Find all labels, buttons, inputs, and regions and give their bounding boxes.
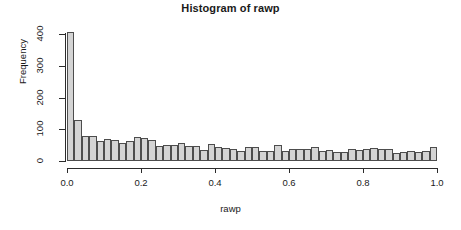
y-axis-tick-label: 200 (34, 80, 45, 114)
x-axis-tick-label: 0.0 (47, 177, 87, 188)
histogram-bar (134, 137, 141, 161)
histogram-bar (171, 145, 178, 162)
x-axis-tick-label: 0.8 (343, 177, 383, 188)
histogram-bar (200, 150, 207, 161)
histogram-bar (333, 152, 340, 161)
histogram-bar (111, 140, 118, 161)
y-axis-tick-label: 300 (34, 48, 45, 82)
x-axis-label: rawp (0, 203, 461, 214)
histogram-bar (282, 151, 289, 161)
histogram-bar (319, 151, 326, 161)
page-title: Histogram of rawp (0, 2, 461, 14)
histogram-bar (119, 143, 126, 161)
y-axis-tick (59, 129, 65, 130)
histogram-bar (400, 152, 407, 161)
histogram-bar (348, 149, 355, 161)
histogram-bar (259, 151, 266, 161)
x-axis-tick (215, 168, 216, 173)
x-axis-tick (67, 168, 68, 173)
y-axis-line (65, 33, 66, 162)
histogram-bar (341, 152, 348, 161)
histogram-bar (141, 138, 148, 161)
histogram-bar (89, 136, 96, 161)
histogram-bar (415, 152, 422, 161)
histogram-bar (267, 151, 274, 161)
histogram-bar (274, 145, 281, 161)
histogram-bar (304, 149, 311, 161)
y-axis-tick (59, 34, 65, 35)
x-axis-tick (363, 168, 364, 173)
y-axis-tick-label: 100 (34, 112, 45, 146)
y-axis-tick (59, 66, 65, 67)
histogram-bar (193, 146, 200, 161)
histogram-bar (82, 136, 89, 161)
y-axis-tick (59, 98, 65, 99)
histogram-plot: Histogram of rawp Frequency rawp 0100200… (0, 0, 461, 230)
x-axis-tick (437, 168, 438, 173)
histogram-bar (185, 146, 192, 161)
histogram-bar (208, 144, 215, 161)
histogram-bar (215, 147, 222, 161)
histogram-bar (237, 151, 244, 161)
histogram-bar (370, 148, 377, 161)
histogram-bar (385, 149, 392, 161)
histogram-bar (430, 147, 437, 161)
histogram-bar (178, 143, 185, 161)
x-axis-tick-label: 0.6 (269, 177, 309, 188)
histogram-bar (74, 120, 81, 161)
x-axis-tick (289, 168, 290, 173)
y-axis-label: Frequency (17, 18, 28, 106)
x-axis-tick-label: 1.0 (417, 177, 457, 188)
plot-panel (67, 30, 437, 161)
histogram-bar (126, 141, 133, 161)
histogram-bar (97, 141, 104, 161)
histogram-bar (245, 147, 252, 161)
histogram-bar (156, 146, 163, 161)
x-axis-tick (141, 168, 142, 173)
y-axis-tick (59, 161, 65, 162)
histogram-bar (148, 140, 155, 161)
histogram-bar (230, 149, 237, 161)
histogram-bar (356, 150, 363, 161)
histogram-bar (393, 153, 400, 161)
histogram-bar (289, 149, 296, 161)
histogram-bar (222, 148, 229, 161)
histogram-bar (422, 151, 429, 161)
y-axis-tick-label: 0 (34, 144, 45, 178)
histogram-bar (311, 147, 318, 161)
histogram-bar (104, 139, 111, 161)
x-axis-line (67, 168, 438, 169)
y-axis-tick-label: 400 (34, 17, 45, 51)
histogram-bar (296, 149, 303, 161)
histogram-bar (363, 149, 370, 161)
histogram-bar (163, 145, 170, 161)
histogram-bar (252, 147, 259, 161)
x-axis-tick-label: 0.4 (195, 177, 235, 188)
histogram-bar (67, 32, 74, 161)
histogram-bar (326, 150, 333, 161)
x-axis-tick-label: 0.2 (121, 177, 161, 188)
histogram-bar (378, 149, 385, 161)
histogram-bar (407, 151, 414, 161)
